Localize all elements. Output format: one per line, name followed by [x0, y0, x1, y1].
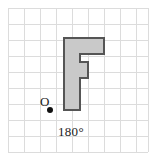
f-letter-shape — [64, 38, 104, 110]
center-of-rotation-label: O — [40, 95, 49, 108]
rotation-diagram: O 180° — [0, 0, 156, 162]
rotation-angle-label: 180° — [58, 125, 84, 138]
